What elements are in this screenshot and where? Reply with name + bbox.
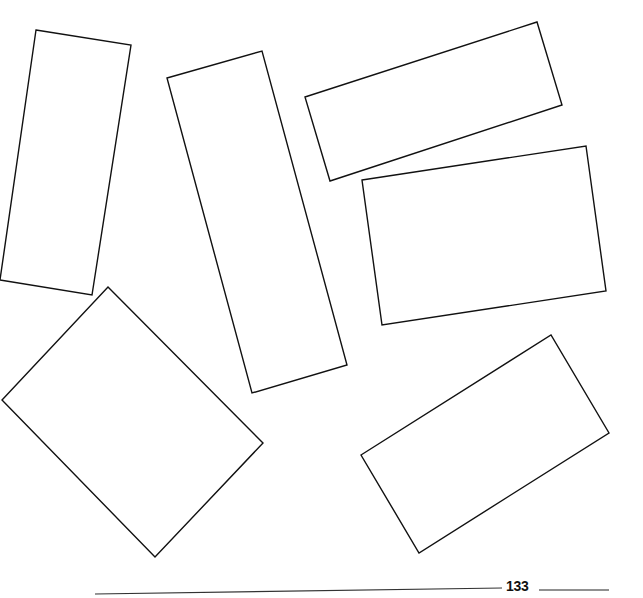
rectangle-shape-3 [305, 22, 562, 181]
rectangle-shape-5 [2, 287, 263, 557]
page-number: 133 [506, 578, 528, 594]
footer-rule-left [95, 588, 502, 594]
rectangle-shape-4 [362, 146, 606, 325]
rectangle-shape-6 [361, 335, 609, 553]
rectangle-shape-2 [167, 51, 347, 393]
rectangle-shape-1 [0, 30, 131, 295]
worksheet-canvas [0, 0, 643, 598]
